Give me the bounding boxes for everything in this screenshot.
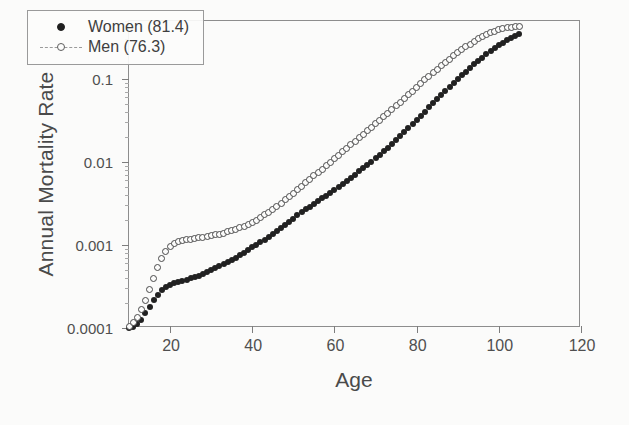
x-axis-tick-label: 20 — [162, 337, 180, 355]
x-axis-tick: 20 — [170, 326, 171, 333]
data-series-men — [129, 21, 579, 326]
y-axis-tick-label: 0.0001 — [67, 320, 113, 337]
x-axis-tick: 80 — [417, 326, 418, 333]
data-point — [138, 306, 145, 313]
y-axis-tick-label: 0.1 — [92, 71, 113, 88]
legend-label-women: Women (81.4) — [84, 18, 189, 36]
y-axis-tick: 0.1 — [122, 79, 129, 80]
data-series-layer — [129, 21, 579, 326]
y-axis-title: Annual Mortality Rate — [34, 24, 58, 324]
legend-label-men: Men (76.3) — [84, 38, 165, 56]
y-axis-tick-label: 0.01 — [84, 154, 113, 171]
data-point — [146, 286, 153, 293]
data-point — [154, 264, 161, 271]
x-axis-tick: 100 — [499, 326, 500, 333]
x-axis-tick-label: 120 — [569, 337, 596, 355]
data-point — [158, 255, 165, 262]
plot-area: 0.00010.0010.010.120406080100120 — [128, 20, 580, 327]
x-axis-tick: 40 — [252, 326, 253, 333]
y-axis-tick: 0.001 — [122, 245, 129, 246]
data-point — [134, 314, 141, 321]
legend-marker-filled-circle-icon — [38, 20, 84, 34]
legend-item-men[interactable]: Men (76.3) — [38, 37, 189, 57]
data-point — [516, 23, 523, 30]
x-axis-tick: 120 — [581, 326, 582, 333]
data-point — [142, 297, 149, 304]
data-point — [150, 275, 157, 282]
x-axis-tick-label: 40 — [244, 337, 262, 355]
legend-item-women[interactable]: Women (81.4) — [38, 17, 189, 37]
x-axis-tick-label: 80 — [409, 337, 427, 355]
y-axis-tick: 0.01 — [122, 162, 129, 163]
y-axis-tick-label: 0.001 — [75, 237, 113, 254]
x-axis-tick: 60 — [334, 326, 335, 333]
chart-legend: Women (81.4) Men (76.3) — [27, 10, 204, 65]
legend-marker-open-circle-icon — [38, 40, 84, 54]
x-axis-tick-label: 100 — [486, 337, 513, 355]
x-axis-title: Age — [128, 368, 580, 392]
chart-figure: Annual Mortality Rate 0.00010.0010.010.1… — [0, 0, 629, 425]
x-axis-tick-label: 60 — [327, 337, 345, 355]
